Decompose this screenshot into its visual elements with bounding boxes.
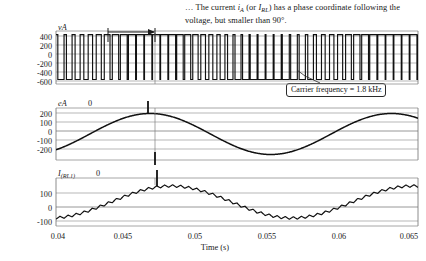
figure-root: … The current iA (or IRL) has a phase co…	[0, 0, 426, 261]
panel-2-grid	[56, 108, 418, 160]
panel-1-pwm-trace	[56, 35, 418, 80]
plot-canvas	[0, 0, 426, 261]
panel-2-voltage-trace	[56, 114, 418, 155]
panel-3-current-trace	[56, 185, 418, 219]
